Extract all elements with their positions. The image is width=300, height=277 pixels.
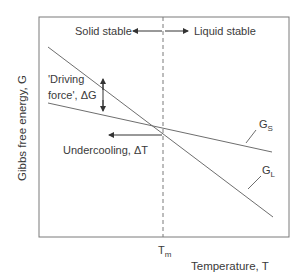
gs-label: GS (259, 118, 273, 135)
gs-leader-line (246, 130, 256, 143)
y-axis-label: Gibbs free energy, G (16, 58, 28, 198)
gl-leader-line (248, 176, 261, 189)
solid-stable-label: Solid stable (75, 25, 132, 37)
driving-force-label-line1: 'Driving (48, 73, 84, 85)
melting-point-label: Tm (158, 244, 171, 261)
x-axis-label: Temperature, T (191, 260, 269, 272)
plot-frame (39, 17, 289, 237)
liquid-stable-label: Liquid stable (194, 25, 256, 37)
undercooling-label: Undercooling, ΔT (63, 144, 148, 156)
gl-label: GL (262, 164, 275, 181)
driving-force-label-line2: force', ΔG (48, 89, 97, 101)
diagram-canvas (0, 0, 300, 277)
